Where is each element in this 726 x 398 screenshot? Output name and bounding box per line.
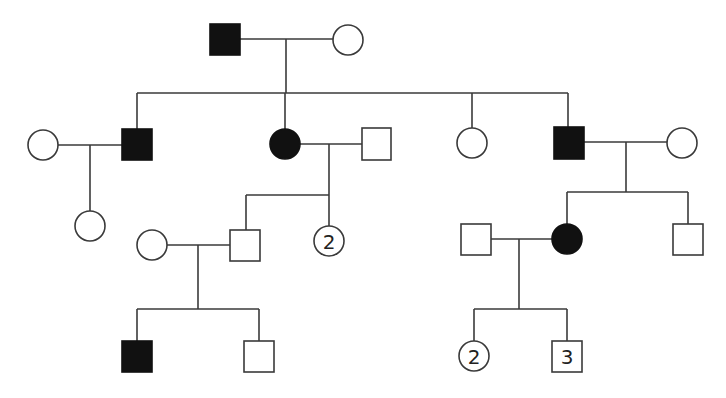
individual-II-7-female [667,128,697,158]
pedigree-chart: 2 2 3 [0,0,726,398]
family-III-2-III-3 [122,230,274,372]
individual-III-7-male [673,224,703,255]
count-label-III-4: 2 [323,230,336,254]
individual-III-5-male [461,224,491,255]
individual-I-2-female [333,25,363,55]
family-II-3-II-4: 2 [246,128,391,256]
generation-i [210,24,363,93]
individual-II-2-affected-male [122,129,152,160]
individual-III-1-female [75,211,105,241]
individual-II-4-male [362,128,391,160]
individual-I-1-affected-male [210,24,240,55]
sibship-ii [137,93,568,129]
individual-IV-1-affected-male [122,341,152,372]
individual-III-3-male [230,230,260,261]
count-label-IV-3: 2 [468,345,481,369]
count-label-IV-4: 3 [561,345,574,369]
family-II-1-II-2 [28,129,152,241]
individual-II-5-female [457,128,487,158]
individual-II-3-affected-female [270,129,300,159]
individual-II-6-affected-male [554,127,584,159]
individual-IV-2-male [244,341,274,372]
individual-II-1-female [28,130,58,160]
family-III-5-III-6: 2 3 [459,224,582,372]
individual-III-2-female [137,230,167,260]
individual-III-6-affected-female [552,224,582,254]
